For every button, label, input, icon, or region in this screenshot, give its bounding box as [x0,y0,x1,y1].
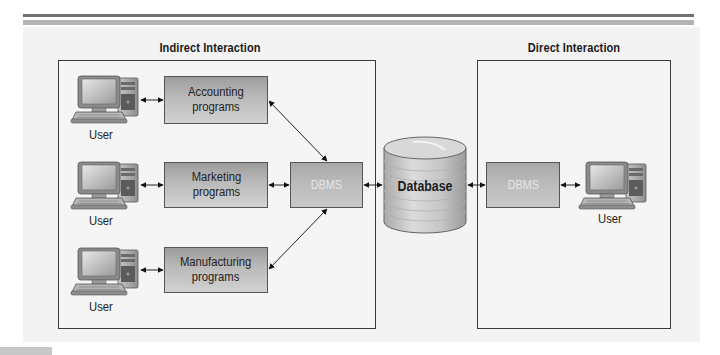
header-rule-light [23,20,694,25]
accounting-label-line2: programs [188,100,244,115]
desktop-computer-icon [70,246,142,296]
desktop-computer-icon [70,160,142,210]
marketing-label-line2: programs [191,185,240,200]
user-label-manufacturing: User [89,300,113,314]
manufacturing-label-line1: Manufacturing [180,255,251,270]
marketing-label-line1: Marketing [191,170,240,185]
accounting-label-line1: Accounting [188,85,244,100]
marketing-programs-box: Marketing programs [164,162,268,208]
manufacturing-label-line2: programs [180,270,251,285]
dbms-box-direct: DBMS [486,162,560,208]
accounting-programs-box: Accounting programs [164,76,268,124]
corner-tab [0,347,52,355]
user-label-direct: User [598,212,622,226]
user-label-accounting: User [89,128,113,142]
header-rule-dark [23,14,694,17]
dbms-box-indirect: DBMS [290,162,363,208]
database-label: Database [398,178,453,194]
manufacturing-programs-box: Manufacturing programs [164,247,268,293]
desktop-computer-icon [70,74,142,124]
dbms-label-direct: DBMS [507,178,538,193]
direct-interaction-title: Direct Interaction [528,40,620,55]
dbms-label-indirect: DBMS [311,178,342,193]
indirect-interaction-title: Indirect Interaction [159,40,260,55]
user-label-marketing: User [89,214,113,228]
desktop-computer-icon [578,160,650,210]
